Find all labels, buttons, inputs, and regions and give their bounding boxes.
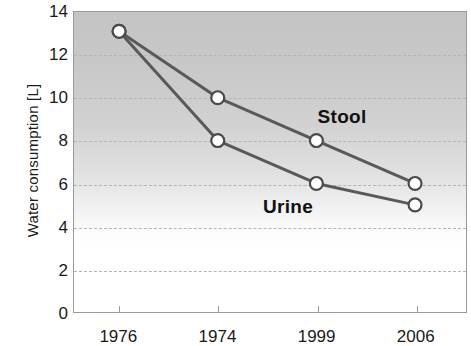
x-axis-tick-label: 1976 bbox=[78, 328, 158, 345]
data-point-marker bbox=[409, 198, 422, 211]
data-point-marker bbox=[113, 25, 126, 38]
x-axis-tick-label: 1999 bbox=[277, 328, 357, 345]
chart-figure: Water consumption [L] 02468101214 197619… bbox=[0, 0, 471, 346]
data-point-marker bbox=[211, 134, 224, 147]
series-label: Urine bbox=[263, 196, 313, 218]
data-point-marker bbox=[211, 91, 224, 104]
plot-area: StoolUrine bbox=[73, 11, 467, 313]
x-axis-tick-label: 2006 bbox=[376, 328, 456, 345]
data-series-layer bbox=[74, 12, 466, 312]
data-point-marker bbox=[409, 177, 422, 190]
data-point-marker bbox=[310, 177, 323, 190]
data-point-marker bbox=[310, 134, 323, 147]
x-axis-tick-label: 1974 bbox=[177, 328, 257, 345]
series-label: Stool bbox=[318, 106, 367, 128]
